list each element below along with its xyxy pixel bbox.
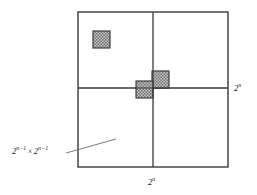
quadrant-first-exponent: n−1 [16,145,26,151]
quadrant-label-leader-line [66,139,116,153]
quadrant-second-exponent: n−1 [38,145,48,151]
diagram-canvas [0,0,257,195]
quadrant-dimension-label: 2n−1×2n−1 [12,145,48,156]
bottom-side-length-label: 2n [148,176,155,186]
quadrant-times-symbol: × [26,147,34,156]
right-side-exponent: n [238,82,241,88]
right-side-length-label: 2n [234,82,241,92]
figure-container: 2n 2n 2n−1×2n−1 [0,0,257,195]
defective-square-top-left [93,31,110,48]
center-square-lower-left [136,81,153,98]
center-square-upper-right [152,71,169,88]
bottom-side-exponent: n [152,176,155,182]
